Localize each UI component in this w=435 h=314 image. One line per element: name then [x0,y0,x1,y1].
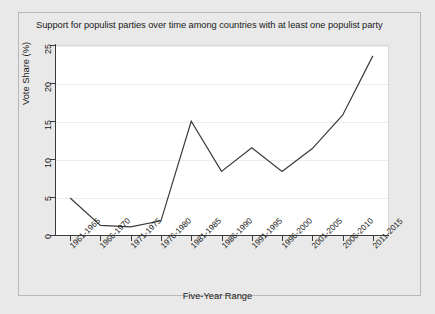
x-axis-title: Five-Year Range [0,291,435,301]
y-axis-title: Vote Share (%) [21,42,31,105]
plot-area [55,45,389,236]
y-tick-label-20: 20 [43,82,53,92]
chart-figure: Support for populist parties over time a… [0,0,435,314]
y-tick-label-10: 10 [43,158,53,168]
y-axis-line [55,44,56,236]
chart-title: Support for populist parties over time a… [36,20,426,30]
y-tick-label-5: 5 [43,196,53,201]
y-tick-label-0: 0 [43,234,53,239]
y-tick-label-25: 25 [43,44,53,54]
series-line-populist-vote-share [55,46,388,236]
y-tick-label-15: 15 [43,120,53,130]
